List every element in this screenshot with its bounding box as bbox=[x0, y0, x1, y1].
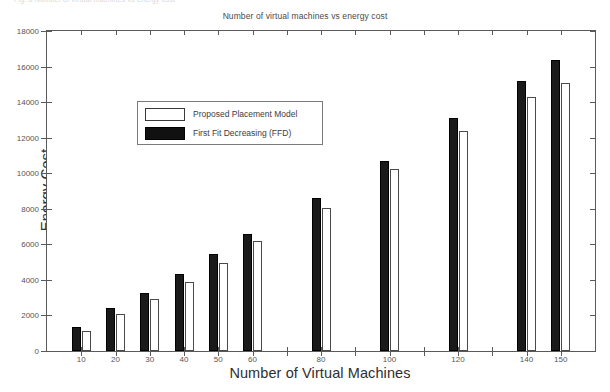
x-axis-tick-label: 40 bbox=[180, 355, 189, 364]
bar-proposed bbox=[185, 282, 194, 351]
x-axis-tick bbox=[287, 351, 288, 356]
x-axis-tick-label: 10 bbox=[77, 355, 86, 364]
y-axis-tick-label: 16000 bbox=[17, 62, 39, 71]
bar-proposed bbox=[150, 299, 159, 351]
legend-item-ffd: First Fit Decreasing (FFD) bbox=[145, 126, 291, 140]
y-axis-tick-inner bbox=[47, 351, 52, 352]
bar-proposed bbox=[322, 208, 331, 351]
bar-ffd bbox=[449, 118, 458, 351]
bar-ffd bbox=[517, 81, 526, 351]
legend-label-proposed: Proposed Placement Model bbox=[193, 109, 297, 119]
y-axis-tick-label: 12000 bbox=[17, 133, 39, 142]
bar-ffd bbox=[243, 234, 252, 351]
figure-caption-clipped: Fig. 8 Number of virtual machines vs ene… bbox=[14, 0, 314, 5]
bar-ffd bbox=[312, 198, 321, 351]
bar-proposed bbox=[82, 331, 91, 351]
bar-proposed bbox=[561, 83, 570, 351]
plot-area: 0200040006000800010000120001400016000180… bbox=[46, 30, 596, 352]
y-axis-tick-right bbox=[590, 351, 595, 352]
bar-ffd bbox=[551, 60, 560, 351]
x-axis-tick-label: 20 bbox=[111, 355, 120, 364]
chart-legend: Proposed Placement Model First Fit Decre… bbox=[137, 101, 323, 145]
y-axis-tick-label: 4000 bbox=[21, 275, 39, 284]
x-axis-tick-label: 80 bbox=[317, 355, 326, 364]
x-axis-tick-label: 60 bbox=[248, 355, 257, 364]
y-axis-tick-label: 10000 bbox=[17, 169, 39, 178]
y-axis-tick-label: 6000 bbox=[21, 240, 39, 249]
x-axis-tick-label: 100 bbox=[383, 355, 396, 364]
legend-swatch-ffd-icon bbox=[145, 127, 185, 140]
legend-label-ffd: First Fit Decreasing (FFD) bbox=[193, 128, 291, 138]
x-axis-tick bbox=[492, 351, 493, 356]
bar-proposed bbox=[390, 169, 399, 351]
chart-title: Number of virtual machines vs energy cos… bbox=[0, 11, 610, 21]
bar-ffd bbox=[175, 274, 184, 351]
bar-proposed bbox=[253, 241, 262, 351]
figure-container: Fig. 8 Number of virtual machines vs ene… bbox=[0, 0, 610, 392]
bar-proposed bbox=[116, 314, 125, 351]
bars-layer bbox=[47, 31, 595, 351]
legend-swatch-proposed-icon bbox=[145, 108, 185, 121]
legend-item-proposed: Proposed Placement Model bbox=[145, 107, 297, 121]
y-axis-tick-label: 14000 bbox=[17, 98, 39, 107]
x-axis-title: Number of Virtual Machines bbox=[46, 365, 594, 381]
bar-ffd bbox=[72, 327, 81, 351]
x-axis-tick-label: 140 bbox=[520, 355, 533, 364]
bar-ffd bbox=[106, 308, 115, 351]
y-axis-tick-label: 18000 bbox=[17, 27, 39, 36]
y-axis-tick-label: 8000 bbox=[21, 204, 39, 213]
y-axis-tick-label: 0 bbox=[35, 347, 39, 356]
bar-ffd bbox=[140, 293, 149, 351]
x-axis-tick-label: 120 bbox=[451, 355, 464, 364]
x-axis-tick-label: 50 bbox=[214, 355, 223, 364]
bar-proposed bbox=[459, 131, 468, 351]
bar-proposed bbox=[219, 263, 228, 351]
y-axis-tick-label: 2000 bbox=[21, 311, 39, 320]
x-axis-tick-label: 30 bbox=[145, 355, 154, 364]
x-axis-tick-label: 150 bbox=[554, 355, 567, 364]
bar-ffd bbox=[380, 161, 389, 351]
x-axis-tick bbox=[424, 351, 425, 356]
bar-ffd bbox=[209, 254, 218, 351]
bar-proposed bbox=[527, 97, 536, 351]
x-axis-tick bbox=[355, 351, 356, 356]
y-axis-title-container: Energy Cost bbox=[6, 30, 28, 350]
